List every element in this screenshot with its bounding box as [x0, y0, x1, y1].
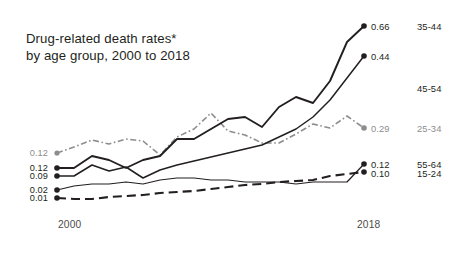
start-value-45-54: 0.09: [18, 171, 48, 181]
start-marker-25-34: [54, 150, 59, 155]
series-label-25-34: 25-34: [417, 123, 441, 134]
start-marker-45-54: [54, 173, 60, 179]
start-value-15-24: 0.01: [18, 193, 48, 203]
chart-title-line-1: Drug-related death rates*: [26, 31, 190, 48]
end-marker-25-34: [361, 125, 367, 131]
end-marker-35-44: [361, 23, 367, 29]
series-line-25-34: [57, 113, 364, 155]
series-line-55-64: [57, 164, 364, 190]
end-value-25-34: 0.29: [371, 123, 390, 134]
start-marker-15-24: [54, 195, 60, 201]
chart-title-line-2: by age group, 2000 to 2018: [26, 48, 190, 65]
chart-title: Drug-related death rates* by age group, …: [26, 31, 190, 64]
series-line-45-54: [57, 56, 364, 178]
series-label-45-54: 45-54: [417, 83, 441, 94]
x-axis-start-label: 2000: [58, 219, 81, 230]
end-marker-55-64: [361, 161, 367, 167]
end-value-15-24: 0.10: [371, 168, 390, 179]
series-label-35-44: 35-44: [417, 21, 441, 32]
x-axis-end-label: 2018: [357, 219, 380, 230]
chart-figure: Drug-related death rates* by age group, …: [0, 0, 456, 253]
end-value-35-44: 0.66: [371, 21, 390, 32]
series-line-15-24: [57, 172, 364, 199]
end-value-45-54: 0.44: [371, 51, 390, 62]
start-value-25-34: 0.12: [18, 148, 48, 158]
series-label-15-24: 15-24: [417, 168, 441, 179]
start-marker-55-64: [54, 187, 60, 193]
end-marker-15-24: [361, 169, 367, 175]
end-marker-45-54: [361, 53, 367, 59]
start-marker-35-44: [54, 165, 60, 171]
